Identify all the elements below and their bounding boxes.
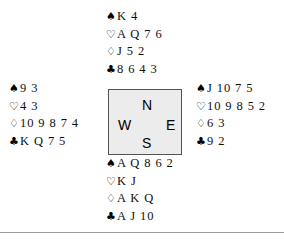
hand-south-diamonds: A K Q: [117, 190, 154, 208]
hand-east: ♠J 10 7 5 ♡10 9 8 5 2 ♢6 3 ♣9 2: [196, 80, 266, 150]
hand-north-clubs: 8 6 4 3: [117, 61, 158, 79]
hand-east-hearts: 10 9 8 5 2: [207, 98, 266, 116]
spade-icon: ♠: [106, 8, 117, 26]
heart-icon: ♡: [9, 98, 20, 116]
hand-south-spades: A Q 8 6 2: [117, 155, 174, 173]
hand-west-spades-row: ♠9 3: [9, 80, 79, 98]
diamond-icon: ♢: [106, 190, 117, 208]
hand-south-clubs-row: ♣A J 10: [106, 208, 174, 226]
hand-west-diamonds: 10 9 8 7 4: [20, 115, 79, 133]
hand-south: ♠A Q 8 6 2 ♡K J ♢A K Q ♣A J 10: [106, 155, 174, 225]
club-icon: ♣: [106, 61, 117, 79]
heart-icon: ♡: [106, 26, 117, 44]
hand-south-clubs: A J 10: [117, 208, 154, 226]
spade-icon: ♠: [106, 155, 117, 173]
hand-west-hearts: 4 3: [20, 98, 38, 116]
bridge-hand-diagram: ♠K 4 ♡A Q 7 6 ♢J 5 2 ♣8 6 4 3 ♠9 3 ♡4 3 …: [0, 0, 284, 239]
hand-west-clubs-row: ♣K Q 7 5: [9, 133, 79, 151]
hand-north-diamonds: J 5 2: [117, 43, 145, 61]
hand-west-hearts-row: ♡4 3: [9, 98, 79, 116]
hand-east-spades: J 10 7 5: [207, 80, 253, 98]
hand-west-diamonds-row: ♢10 9 8 7 4: [9, 115, 79, 133]
diamond-icon: ♢: [196, 115, 207, 133]
club-icon: ♣: [9, 133, 20, 151]
diamond-icon: ♢: [106, 43, 117, 61]
hand-south-spades-row: ♠A Q 8 6 2: [106, 155, 174, 173]
hand-south-hearts-row: ♡K J: [106, 173, 174, 191]
compass-west-label: W: [118, 118, 131, 132]
compass-east-label: E: [166, 118, 175, 132]
hand-east-clubs-row: ♣9 2: [196, 133, 266, 151]
diamond-icon: ♢: [9, 115, 20, 133]
hand-west-clubs: K Q 7 5: [20, 133, 66, 151]
spade-icon: ♠: [9, 80, 20, 98]
spade-icon: ♠: [196, 80, 207, 98]
hand-east-diamonds: 6 3: [207, 115, 225, 133]
hand-south-diamonds-row: ♢A K Q: [106, 190, 174, 208]
hand-north-hearts-row: ♡A Q 7 6: [106, 26, 163, 44]
hand-east-spades-row: ♠J 10 7 5: [196, 80, 266, 98]
hand-north-clubs-row: ♣8 6 4 3: [106, 61, 163, 79]
bottom-divider: [0, 232, 284, 233]
hand-north-spades-row: ♠K 4: [106, 8, 163, 26]
hand-north: ♠K 4 ♡A Q 7 6 ♢J 5 2 ♣8 6 4 3: [106, 8, 163, 78]
hand-west: ♠9 3 ♡4 3 ♢10 9 8 7 4 ♣K Q 7 5: [9, 80, 79, 150]
hand-east-diamonds-row: ♢6 3: [196, 115, 266, 133]
hand-west-spades: 9 3: [20, 80, 38, 98]
hand-north-spades: K 4: [117, 8, 138, 26]
heart-icon: ♡: [106, 173, 117, 191]
club-icon: ♣: [106, 208, 117, 226]
compass-north-label: N: [142, 98, 152, 112]
hand-north-diamonds-row: ♢J 5 2: [106, 43, 163, 61]
hand-east-clubs: 9 2: [207, 133, 225, 151]
compass-box: N W E S: [108, 89, 182, 155]
hand-south-hearts: K J: [117, 173, 137, 191]
club-icon: ♣: [196, 133, 207, 151]
heart-icon: ♡: [196, 98, 207, 116]
compass-south-label: S: [142, 136, 151, 150]
hand-east-hearts-row: ♡10 9 8 5 2: [196, 98, 266, 116]
hand-north-hearts: A Q 7 6: [117, 26, 163, 44]
